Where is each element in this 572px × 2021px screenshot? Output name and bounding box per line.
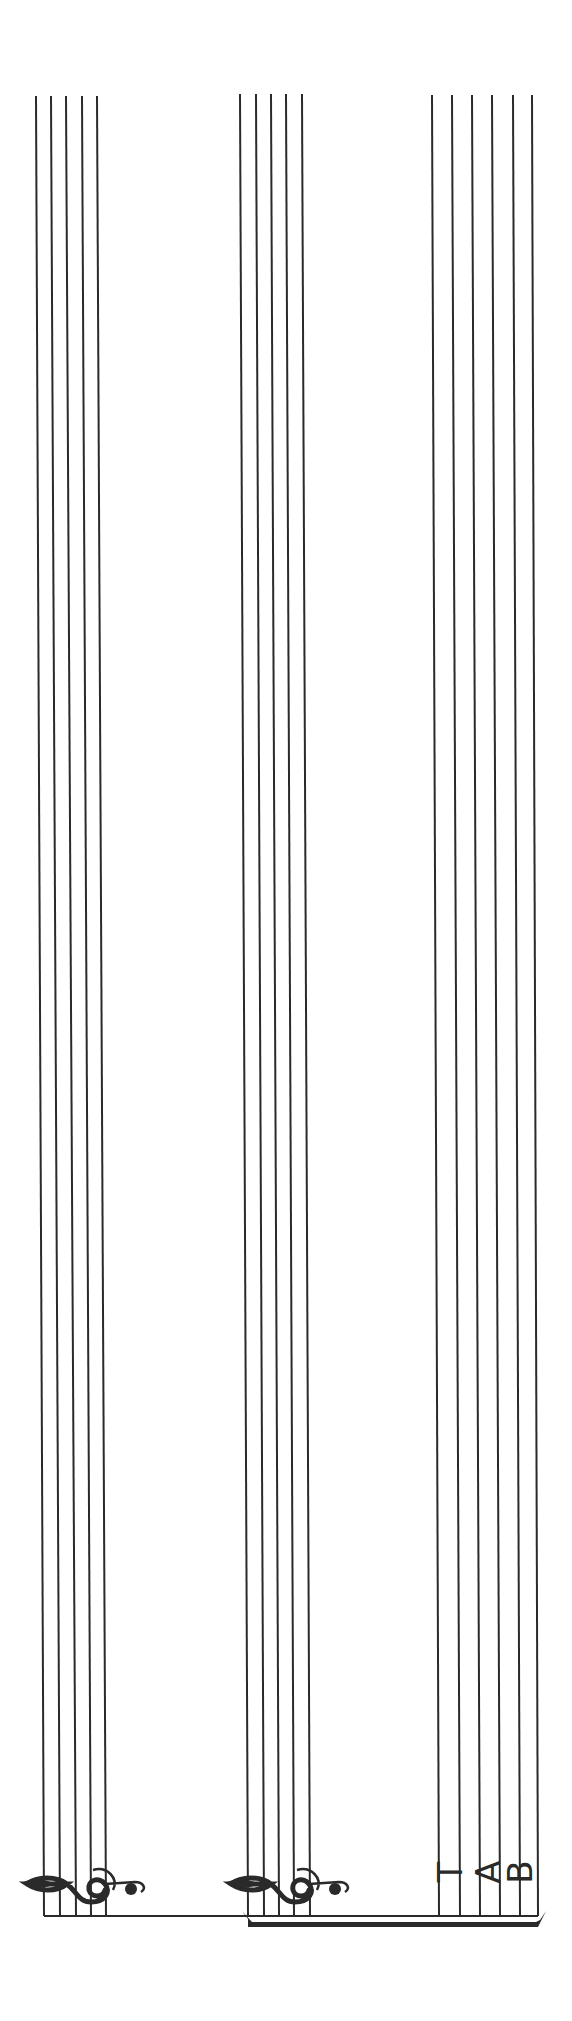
music-score: TAB xyxy=(0,0,572,2021)
staff-line xyxy=(452,95,460,1916)
treble-clef-icon xyxy=(226,1869,348,1902)
staff-line xyxy=(532,95,538,1916)
staff-line xyxy=(97,96,106,1916)
tab-staff xyxy=(432,95,538,1916)
staff-line xyxy=(271,94,279,1916)
staff-line xyxy=(472,95,480,1916)
staves-group xyxy=(36,94,538,1916)
treble-staff-2 xyxy=(240,94,310,1916)
tab-clef-letter-t: T xyxy=(430,1861,470,1883)
system-group xyxy=(44,1911,546,1927)
staff-line xyxy=(513,95,520,1916)
clefs-group: TAB xyxy=(22,1860,540,1902)
staff-line xyxy=(302,94,310,1916)
treble-staff-1 xyxy=(36,96,106,1916)
staff-line xyxy=(432,95,439,1916)
staff-line xyxy=(66,96,76,1916)
staff-line xyxy=(36,96,44,1916)
staff-line xyxy=(256,94,264,1916)
tab-clef-letter-b: B xyxy=(500,1860,540,1883)
staff-line xyxy=(286,94,294,1916)
staff-line xyxy=(82,96,91,1916)
treble-clef-icon xyxy=(22,1869,144,1902)
staff-line xyxy=(492,95,500,1916)
staff-line xyxy=(51,96,60,1916)
staff-line xyxy=(240,94,248,1916)
